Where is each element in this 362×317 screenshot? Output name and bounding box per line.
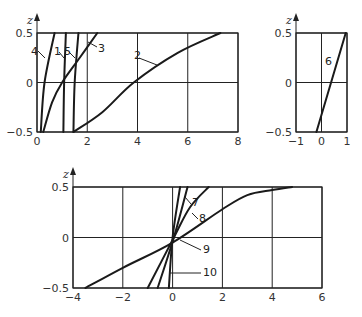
chart-bottom: z−4−202460.50−0.578910 xyxy=(42,167,325,304)
x-tick-label: 0 xyxy=(169,291,176,304)
curve-label-3: 3 xyxy=(98,42,105,55)
arrow-head-icon xyxy=(70,167,76,175)
x-tick-label: 6 xyxy=(319,291,326,304)
arrow-head-icon xyxy=(34,13,40,21)
x-tick-label: 0 xyxy=(318,135,325,148)
leader-line xyxy=(38,51,45,58)
figure: z024680.50−0.512345z−1010.50−0.56z−4−202… xyxy=(0,0,362,317)
y-tick-label: −0.5 xyxy=(265,126,292,139)
curve-label-1: 1 xyxy=(54,45,61,58)
z-axis-label: z xyxy=(26,14,33,27)
y-tick-label: 0.5 xyxy=(52,181,70,194)
curve-label-4: 4 xyxy=(31,45,38,58)
x-tick-label: 6 xyxy=(184,135,191,148)
z-axis-label: z xyxy=(285,14,292,27)
x-tick-label: 2 xyxy=(219,291,226,304)
x-tick-label: −2 xyxy=(115,291,131,304)
x-tick-label: 0 xyxy=(34,135,41,148)
leader-line xyxy=(185,197,191,204)
curve-label-5: 5 xyxy=(64,45,71,58)
x-tick-label: 4 xyxy=(269,291,276,304)
arrow-head-icon xyxy=(293,13,299,21)
y-tick-label: −0.5 xyxy=(6,126,33,139)
y-tick-label: 0 xyxy=(26,77,33,90)
x-tick-label: 8 xyxy=(235,135,242,148)
curve-label-9: 9 xyxy=(203,243,210,256)
leader-line xyxy=(180,240,201,250)
curve-label-6: 6 xyxy=(325,55,332,68)
z-axis-label: z xyxy=(62,168,69,181)
curve-label-2: 2 xyxy=(134,49,141,62)
x-tick-label: 2 xyxy=(84,135,91,148)
chart-top-left: z024680.50−0.512345 xyxy=(6,13,241,148)
y-tick-label: 0 xyxy=(285,77,292,90)
chart-top-right: z−1010.50−0.56 xyxy=(265,13,350,148)
x-tick-label: 4 xyxy=(134,135,141,148)
curve-label-10: 10 xyxy=(203,266,217,279)
y-tick-label: 0.5 xyxy=(275,27,293,40)
leader-line xyxy=(192,213,198,219)
y-tick-label: 0.5 xyxy=(16,27,34,40)
x-tick-label: 1 xyxy=(344,135,351,148)
y-tick-label: 0 xyxy=(62,232,69,245)
leader-line xyxy=(139,58,157,65)
y-tick-label: −0.5 xyxy=(42,282,69,295)
